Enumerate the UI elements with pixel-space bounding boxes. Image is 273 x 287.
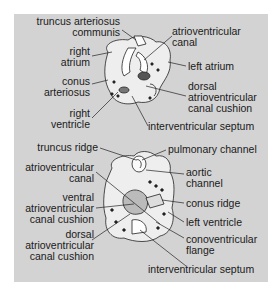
label-line: flange [186,245,257,256]
label-line: canal [14,173,94,184]
label-line: interventricular septum [148,264,254,275]
label-left-ventricle: left ventricle [186,217,242,228]
label-line: pulmonary channel [168,144,257,155]
label-line: conus ridge [186,198,240,209]
label-line: atrium [40,57,90,68]
label-line: canal cushion [14,251,94,262]
label-line: left ventricle [186,217,242,228]
label-truncus-ridge: truncus ridge [20,142,98,153]
label-line: channel [186,178,223,189]
label-line: interventricular septum [148,121,254,132]
label-right-ventricle: right ventricle [30,108,90,130]
label-conoventricular-flange: conoventricular flange [186,234,257,256]
label-line: ventricle [30,119,90,130]
label-line: arteriosus [30,87,90,98]
label-conus-arteriosus: conus arteriosus [30,76,90,98]
label-atrioventricular-canal-bottom: atrioventricular canal [14,162,94,184]
label-interventricular-septum-bottom: interventricular septum [148,264,254,275]
label-line: communis [20,27,120,38]
label-pulmonary-channel: pulmonary channel [168,144,257,155]
label-dorsal-av-cushion-bottom: dorsal atrioventricular canal cushion [14,229,94,262]
label-line: canal [172,37,241,48]
label-line: truncus ridge [20,142,98,153]
label-ventral-av-cushion: ventral atrioventricular canal cushion [14,192,94,225]
label-line: left atrium [188,61,234,72]
label-right-atrium: right atrium [40,46,90,68]
label-left-atrium: left atrium [188,61,234,72]
label-truncus-arteriosus-communis: truncus arteriosus communis [20,16,120,38]
label-line: canal cushion [14,214,94,225]
label-dorsal-av-cushion-top: dorsal atrioventricular canal cushion [188,81,257,114]
label-atrioventricular-canal-top: atrioventricular canal [172,26,241,48]
label-conus-ridge: conus ridge [186,198,240,209]
label-line: canal cushion [188,103,257,114]
bottom-heart-drawing [104,152,174,242]
label-interventricular-septum-top: interventricular septum [148,121,254,132]
label-aortic-channel: aortic channel [186,167,223,189]
